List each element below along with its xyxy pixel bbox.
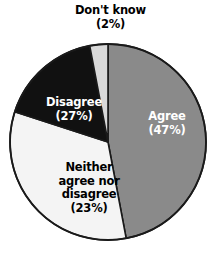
- pie-label-neither-line1: Neither: [44, 161, 134, 175]
- pie-chart: Don't know (2%) Agree (47%) Disagree (27…: [0, 0, 221, 256]
- pie-label-disagree: Disagree (27%): [36, 96, 112, 123]
- pie-label-disagree-value: (27%): [36, 110, 112, 124]
- pie-label-neither-value: (23%): [44, 202, 134, 216]
- pie-label-agree-name: Agree: [133, 110, 201, 124]
- pie-label-neither-agree-nor-disagree: Neither agree nor disagree (23%): [44, 161, 134, 215]
- pie-label-agree: Agree (47%): [133, 110, 201, 137]
- pie-label-neither-line2: agree nor: [44, 175, 134, 189]
- pie-label-neither-line3: disagree: [44, 188, 134, 202]
- pie-label-disagree-name: Disagree: [36, 96, 112, 110]
- pie-label-agree-value: (47%): [133, 124, 201, 138]
